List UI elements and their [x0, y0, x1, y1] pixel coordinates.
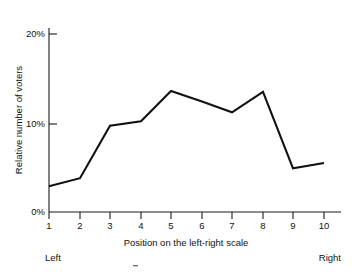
y-axis-title: Relative number of voters	[13, 66, 24, 174]
data-series-line	[49, 91, 324, 186]
x-tick-label-8: 8	[260, 220, 265, 231]
x-tick-label-4: 4	[138, 220, 143, 231]
y-tick-label-0: 0%	[31, 206, 45, 217]
y-tick-label-20: 20%	[26, 28, 46, 39]
x-tick-label-3: 3	[107, 220, 112, 231]
x-tick-label-2: 2	[77, 220, 82, 231]
x-axis-title: Position on the left-right scale	[124, 237, 249, 248]
y-tick-label-10: 10%	[26, 118, 46, 129]
chart-container: 20% 10% 0% 1 2 3 4 5 6 7 8 9 10 Position…	[0, 0, 352, 272]
x-axis-left-label: Left	[45, 252, 61, 263]
x-tick-label-10: 10	[319, 220, 330, 231]
x-tick-label-6: 6	[199, 220, 204, 231]
line-chart: 20% 10% 0% 1 2 3 4 5 6 7 8 9 10 Position…	[0, 0, 352, 272]
x-tick-label-9: 9	[290, 220, 295, 231]
scan-artifact-mark	[133, 265, 138, 266]
x-tick-label-1: 1	[46, 220, 51, 231]
x-tick-label-5: 5	[168, 220, 173, 231]
x-tick-label-7: 7	[229, 220, 234, 231]
x-axis-right-label: Right	[319, 252, 342, 263]
